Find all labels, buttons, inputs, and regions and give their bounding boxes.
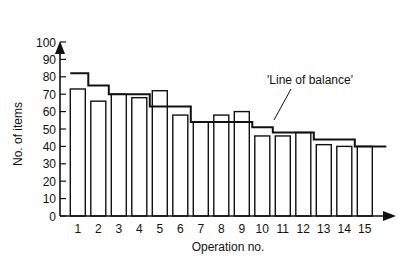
- x-tick-label: 15: [358, 222, 372, 236]
- bar-operation-13: [316, 145, 331, 216]
- y-tick-label: 30: [43, 157, 57, 171]
- bar-operation-9: [234, 112, 249, 216]
- y-tick-label: 20: [43, 175, 57, 189]
- bar-operation-6: [173, 115, 188, 216]
- x-tick-label: 8: [218, 222, 225, 236]
- x-tick-label: 2: [95, 222, 102, 236]
- bar-operation-8: [214, 115, 229, 216]
- x-tick-label: 1: [74, 222, 81, 236]
- x-tick-label: 7: [197, 222, 204, 236]
- y-axis-label: No. of items: [11, 102, 25, 166]
- x-tick-label: 11: [277, 222, 290, 236]
- bar-operation-15: [357, 146, 372, 216]
- bar-operation-10: [255, 136, 270, 216]
- line-of-balance-chart: 0102030405060708090100 12345678910111213…: [0, 0, 407, 270]
- y-tick-label: 80: [43, 70, 57, 84]
- y-tick-label: 100: [36, 36, 56, 50]
- y-tick-label: 40: [43, 140, 57, 154]
- y-tick-label: 0: [49, 210, 56, 224]
- bar-operation-1: [70, 89, 85, 216]
- x-ticks-group: 123456789101112131415: [74, 222, 371, 236]
- x-tick-label: 10: [256, 222, 270, 236]
- x-tick-label: 5: [156, 222, 163, 236]
- x-axis-label: Operation no.: [192, 240, 265, 254]
- x-tick-label: 3: [115, 222, 122, 236]
- bar-operation-4: [132, 98, 147, 216]
- x-axis-arrow-icon: [383, 211, 396, 221]
- bar-operation-2: [91, 101, 106, 216]
- bar-operation-3: [111, 94, 126, 216]
- x-tick-label: 12: [297, 222, 311, 236]
- x-tick-label: 9: [238, 222, 245, 236]
- y-axis-arrow-icon: [55, 41, 65, 54]
- y-tick-label: 10: [43, 192, 57, 206]
- y-tick-label: 60: [43, 105, 57, 119]
- annotation-line-of-balance: 'Line of balance': [267, 73, 353, 87]
- bar-operation-12: [296, 132, 311, 216]
- y-tick-label: 70: [43, 88, 57, 102]
- bar-operation-5: [152, 91, 167, 216]
- x-tick-label: 14: [338, 222, 352, 236]
- x-tick-label: 13: [317, 222, 331, 236]
- x-tick-label: 6: [177, 222, 184, 236]
- y-tick-label: 90: [43, 53, 57, 67]
- x-tick-label: 4: [136, 222, 143, 236]
- annotation-pointer: [274, 89, 291, 120]
- y-ticks-group: 0102030405060708090100: [36, 36, 66, 224]
- y-tick-label: 50: [43, 123, 57, 137]
- bar-operation-11: [275, 136, 290, 216]
- bar-operation-14: [337, 146, 352, 216]
- bar-operation-7: [193, 122, 208, 216]
- bars-group: [70, 89, 372, 216]
